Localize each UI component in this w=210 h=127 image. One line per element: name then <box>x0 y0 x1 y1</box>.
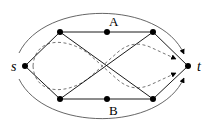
graph-edges <box>25 32 188 99</box>
network-diagram: s t A B <box>0 0 210 127</box>
label-t: t <box>197 59 202 74</box>
label-B: B <box>109 103 118 118</box>
label-s: s <box>11 59 17 74</box>
node-top-right <box>150 29 156 35</box>
edge-br-t <box>153 66 188 99</box>
node-B <box>104 96 110 102</box>
node-top-left <box>57 29 63 35</box>
node-A <box>104 29 110 35</box>
node-s <box>22 63 28 69</box>
label-A: A <box>109 14 119 29</box>
node-bottom-right <box>150 96 156 102</box>
node-bottom-left <box>57 96 63 102</box>
edge-tr-t <box>153 32 188 66</box>
node-t <box>185 63 191 69</box>
